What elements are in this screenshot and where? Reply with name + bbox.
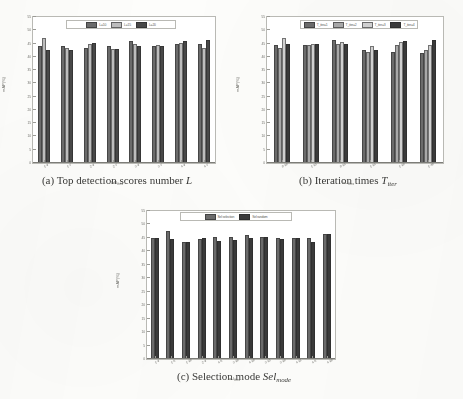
y-axis-tick-label: 10 xyxy=(261,134,265,138)
legend-swatch xyxy=(362,22,373,28)
bar xyxy=(403,41,407,163)
y-axis-tick-label: 10 xyxy=(27,134,31,138)
panel-c: 05101520253035404550551-91-51-202-94-53-… xyxy=(118,198,350,394)
y-axis-tick-label: 10 xyxy=(141,330,145,334)
y-axis-tick-label: 30 xyxy=(141,276,145,280)
y-axis-tick: 30 xyxy=(267,82,270,83)
bar-group xyxy=(274,17,290,163)
legend-item: T_iter=1 xyxy=(304,22,328,28)
y-axis-tick-label: 50 xyxy=(27,28,31,32)
x-axis-tick-label: 4-9 xyxy=(180,163,186,169)
bar-group xyxy=(175,17,187,163)
y-axis-tick: 20 xyxy=(147,304,150,305)
y-axis-tick: 55 xyxy=(147,210,150,211)
bar-group xyxy=(84,17,96,163)
x-axis-tick-label: 1-20 xyxy=(398,162,406,169)
x-axis-tick-label: 3-20 xyxy=(232,358,240,365)
y-axis-tick-label: 55 xyxy=(261,15,265,19)
y-axis-tick: 35 xyxy=(33,69,36,70)
legend-label: L=15 xyxy=(124,23,131,27)
y-axis-tick-label: 45 xyxy=(27,42,31,46)
x-axis-tick-label: 3-20 xyxy=(279,358,287,365)
bar xyxy=(206,40,210,163)
panel-a-legend: L=10L=15L=20 xyxy=(66,20,176,29)
legend-swatch xyxy=(136,22,147,28)
x-axis-tick-label: 1-7 xyxy=(66,163,72,169)
bar xyxy=(233,240,237,359)
x-axis-tick-label: 2-9 xyxy=(201,359,207,365)
x-axis-tick-label: 1-5 xyxy=(170,359,176,365)
y-axis-tick: 25 xyxy=(33,96,36,97)
panel-a-axes: 05101520253035404550551-91-72-92-73-93-7… xyxy=(32,16,216,164)
bar xyxy=(170,239,174,359)
bar xyxy=(46,50,50,163)
bar xyxy=(344,44,348,163)
x-axis-tick: 3-12 xyxy=(265,356,266,359)
legend-label: T_iter=2 xyxy=(346,23,357,27)
bar-group xyxy=(292,211,300,359)
bar xyxy=(374,50,378,163)
y-axis-tick: 25 xyxy=(267,96,270,97)
y-axis-tick: 15 xyxy=(33,122,36,123)
panel-c-plot: 05101520253035404550551-91-51-202-94-53-… xyxy=(118,198,350,366)
x-axis-tick: 2-9 xyxy=(202,356,203,359)
bar-group xyxy=(391,17,407,163)
x-axis-tick: 1-20 xyxy=(399,160,400,163)
legend-swatch xyxy=(304,22,315,28)
y-axis-tick-label: 30 xyxy=(261,81,265,85)
x-axis-tick-label: 4-5 xyxy=(311,359,317,365)
x-axis-tick-label: 2-9 xyxy=(89,163,95,169)
bar-group xyxy=(276,211,284,359)
y-axis-tick-label: 25 xyxy=(27,95,31,99)
bar xyxy=(69,50,73,163)
x-axis-tick: 1-7 xyxy=(67,160,68,163)
x-axis-tick-label: 0-10 xyxy=(281,162,289,169)
y-axis-tick: 0 xyxy=(267,162,270,163)
panel-b-bars xyxy=(267,17,443,163)
bar-group xyxy=(166,211,174,359)
y-axis-tick: 15 xyxy=(267,122,270,123)
panel-c-caption-symbol-sub: mode xyxy=(276,376,291,383)
panel-c-y-axis-label: mAP(%) xyxy=(115,273,120,288)
panel-b: 05101520253035404550550-101-120-151-151-… xyxy=(240,4,456,194)
x-axis-tick-label: 4-7 xyxy=(203,163,209,169)
y-axis-tick: 40 xyxy=(33,56,36,57)
bar xyxy=(155,238,159,359)
x-axis-tick-label: 3-12 xyxy=(264,358,272,365)
x-axis-tick: 0-15 xyxy=(340,160,341,163)
bar xyxy=(92,43,96,163)
y-axis-tick: 50 xyxy=(147,223,150,224)
legend-label: L=20 xyxy=(149,23,156,27)
x-axis-tick-label: 1-12 xyxy=(310,162,318,169)
legend-label: Sel selection xyxy=(218,215,235,219)
bar xyxy=(296,238,300,359)
y-axis-tick-label: 20 xyxy=(27,108,31,112)
legend-swatch xyxy=(111,22,122,28)
x-axis-tick: 4-7 xyxy=(204,160,205,163)
y-axis-tick: 20 xyxy=(33,109,36,110)
y-axis-tick: 0 xyxy=(33,162,36,163)
bar xyxy=(183,41,187,163)
y-axis-tick-label: 25 xyxy=(261,95,265,99)
x-axis-tick-label: 1-15 xyxy=(369,162,377,169)
legend-label: T_iter=3 xyxy=(375,23,386,27)
y-axis-tick-label: 35 xyxy=(261,68,265,72)
bar-group xyxy=(107,17,119,163)
bar xyxy=(264,237,268,359)
y-axis-tick: 10 xyxy=(267,135,270,136)
panel-a: 05101520253035404550551-91-72-92-73-93-7… xyxy=(6,4,228,194)
y-axis-tick-label: 5 xyxy=(29,148,31,152)
panel-b-x-axis-label-sub: thres xyxy=(348,183,354,186)
y-axis-tick-label: 20 xyxy=(141,303,145,307)
y-axis-tick: 40 xyxy=(267,56,270,57)
legend-label: T_iter=4 xyxy=(403,23,414,27)
y-axis-tick: 30 xyxy=(33,82,36,83)
x-axis-tick: 1-5 xyxy=(171,356,172,359)
y-axis-tick-label: 50 xyxy=(141,222,145,226)
x-axis-tick-label: 1-30 xyxy=(427,162,435,169)
x-axis-tick-label: 1-9 xyxy=(43,163,49,169)
bar xyxy=(327,234,331,359)
legend-item: Sel selection xyxy=(205,214,235,220)
bar-group xyxy=(151,211,159,359)
x-axis-tick: 1-20 xyxy=(186,356,187,359)
